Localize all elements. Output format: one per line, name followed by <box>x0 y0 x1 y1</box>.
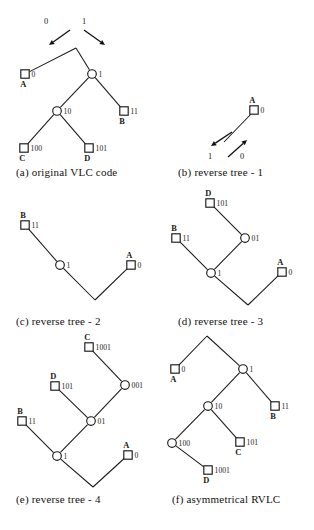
figure-svg: 0A11011B100C101D010A1011B10A101D0111B10A… <box>0 0 314 530</box>
tree-edge <box>28 229 56 261</box>
node-code-label: 1 <box>99 70 103 79</box>
node-code-label: 0 <box>32 70 36 79</box>
node-code-label: 001 <box>132 381 144 390</box>
tree-edge <box>63 268 95 300</box>
node-code-label: 101 <box>62 382 74 391</box>
node-symbol-label: A <box>123 441 129 450</box>
tree-edge <box>214 207 242 235</box>
tree-edge <box>60 115 85 144</box>
panel-b: 0A10 <box>208 96 265 161</box>
node-code-label: 0 <box>138 261 142 270</box>
node-symbol-label: C <box>84 333 90 342</box>
panel-caption-e: (e) reverse tree - 4 <box>16 493 101 505</box>
arrow-1-shaft <box>84 30 101 42</box>
node-code-label: 0 <box>289 268 293 277</box>
arrow-1-label: 1 <box>208 152 212 161</box>
arrow-0-label: 0 <box>44 17 48 26</box>
tree-edge <box>95 269 127 300</box>
node-code-label: 100 <box>179 439 191 448</box>
leaf-node-A <box>278 268 286 276</box>
panel-caption-b: (b) reverse tree - 1 <box>178 166 263 178</box>
tree-edge <box>207 336 239 366</box>
internal-node-1 <box>53 452 62 461</box>
node-code-label: 10 <box>64 107 72 116</box>
internal-node-01 <box>241 234 250 243</box>
tree-edge <box>211 373 239 403</box>
node-code-label: 100 <box>31 144 43 153</box>
panel-a: 0A11011B100C101D01 <box>19 17 138 163</box>
tree-edge <box>60 78 88 108</box>
tree-edge <box>176 446 204 467</box>
tree-edge <box>61 459 93 487</box>
internal-node-10 <box>204 402 213 411</box>
node-code-label: 01 <box>252 234 260 243</box>
tree-edge <box>211 410 236 438</box>
internal-node-001 <box>121 381 130 390</box>
node-symbol-label: B <box>17 407 23 416</box>
node-code-label: 1 <box>64 452 68 461</box>
panel-e: 1001C001101D0111B10A <box>17 333 143 487</box>
leaf-node-D <box>204 466 212 474</box>
arrow-0-head <box>49 40 55 45</box>
panel-caption-a: (a) original VLC code <box>16 166 117 178</box>
leaf-node-B <box>172 234 180 242</box>
tree-edge <box>175 410 204 440</box>
node-code-label: 0 <box>261 106 265 115</box>
internal-node-1 <box>88 70 97 79</box>
leaf-node-B <box>271 402 279 410</box>
node-code-label: 1001 <box>215 466 230 475</box>
leaf-node-D <box>85 144 93 152</box>
tree-edge <box>248 276 278 305</box>
tree-edge <box>27 115 53 144</box>
panel-d: 101D0111B10A <box>171 189 292 305</box>
node-symbol-label: B <box>171 224 177 233</box>
tree-edge <box>76 48 89 70</box>
tree-edge <box>215 276 248 305</box>
node-symbol-label: A <box>126 251 132 260</box>
node-symbol-label: D <box>50 372 56 381</box>
panel-caption-c: (c) reverse tree - 2 <box>16 315 101 327</box>
leaf-node-A <box>124 451 132 459</box>
leaf-node-B <box>21 221 29 229</box>
arrow-0-shaft <box>53 30 70 42</box>
node-code-label: 1 <box>67 261 71 270</box>
tree-edge <box>60 425 87 453</box>
panel-caption-d: (d) reverse tree - 3 <box>178 315 263 327</box>
leaf-node-A <box>171 365 179 373</box>
internal-node-01 <box>87 417 96 426</box>
node-symbol-label: C <box>19 154 25 163</box>
node-symbol-label: C <box>235 448 241 457</box>
node-code-label: 01 <box>98 417 106 426</box>
leaf-node-D <box>206 199 214 207</box>
tree-edge <box>59 390 88 418</box>
leaf-node-A <box>127 261 135 269</box>
leaf-node-B <box>18 417 26 425</box>
node-code-label: 101 <box>217 199 229 208</box>
node-code-label: 11 <box>282 402 290 411</box>
tree-edge <box>95 78 120 107</box>
node-code-label: 1 <box>250 365 254 374</box>
node-code-label: 10 <box>215 402 223 411</box>
tree-edge <box>94 389 121 418</box>
leaf-node-C <box>85 343 93 351</box>
node-symbol-label: B <box>20 211 26 220</box>
node-code-label: 0 <box>135 451 139 460</box>
arrow-1-label: 1 <box>82 17 86 26</box>
arrow-0-label: 0 <box>240 152 244 161</box>
node-symbol-label: B <box>119 117 125 126</box>
internal-node-1 <box>56 261 65 270</box>
node-code-label: 101 <box>96 144 108 153</box>
node-code-label: 101 <box>247 438 259 447</box>
node-code-label: 0 <box>182 365 186 374</box>
internal-node-1 <box>207 269 216 278</box>
internal-node-1 <box>239 365 248 374</box>
arrow-1-head <box>99 40 105 45</box>
tree-edge <box>179 336 207 365</box>
node-symbol-label: A <box>277 258 283 267</box>
node-symbol-label: D <box>84 154 90 163</box>
node-code-label: 11 <box>131 107 139 116</box>
tree-edge <box>93 351 122 382</box>
tree-edge <box>214 242 241 270</box>
leaf-node-C <box>20 144 28 152</box>
panel-caption-f: (f) asymmetrical RVLC <box>172 493 280 505</box>
